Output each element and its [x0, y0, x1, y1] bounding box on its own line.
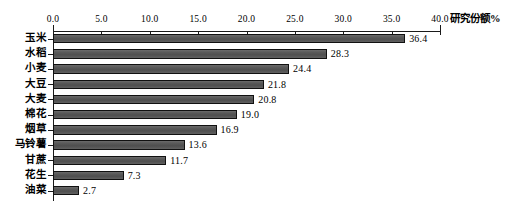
bar-row: 大豆21.8	[0, 79, 516, 94]
category-label: 棉花	[0, 108, 46, 120]
category-label: 大豆	[0, 78, 46, 90]
bar	[53, 186, 79, 195]
bar	[53, 125, 217, 134]
bar-value-label: 20.8	[258, 94, 276, 105]
bar-row: 甘蔗11.7	[0, 155, 516, 170]
horizontal-bar-chart: 0.05.010.015.020.025.030.035.040.0 研究份额%…	[0, 0, 516, 217]
bar-row: 大麦20.8	[0, 94, 516, 109]
bar-value-label: 7.3	[128, 170, 141, 181]
bar-value-label: 16.9	[221, 124, 239, 135]
bar-value-label: 2.7	[83, 185, 96, 196]
bar	[53, 49, 327, 58]
category-label: 甘蔗	[0, 154, 46, 166]
bar	[53, 171, 124, 180]
bar-row: 玉米36.4	[0, 33, 516, 48]
bar-row: 烟草16.9	[0, 124, 516, 139]
bar-value-label: 19.0	[241, 109, 259, 120]
category-label: 玉米	[0, 32, 46, 44]
bar-row: 棉花19.0	[0, 109, 516, 124]
bar-value-label: 11.7	[170, 155, 188, 166]
value-axis-tick-label: 5.0	[81, 14, 121, 25]
bar	[53, 110, 237, 119]
bar	[53, 34, 405, 43]
value-axis-tick-label: 15.0	[178, 14, 218, 25]
bar	[53, 156, 166, 165]
bar-value-label: 13.6	[189, 139, 207, 150]
bar-value-label: 21.8	[268, 79, 286, 90]
category-label: 花生	[0, 169, 46, 181]
value-axis-tick-label: 30.0	[323, 14, 363, 25]
category-label: 大麦	[0, 93, 46, 105]
category-label: 水稻	[0, 47, 46, 59]
bar-row: 水稻28.3	[0, 48, 516, 63]
value-axis-tick-label: 0.0	[33, 14, 73, 25]
bar	[53, 140, 185, 149]
value-axis-tick-label: 10.0	[130, 14, 170, 25]
value-axis-tick-label: 25.0	[275, 14, 315, 25]
category-label: 小麦	[0, 62, 46, 74]
bar-row: 小麦24.4	[0, 63, 516, 78]
bar	[53, 80, 264, 89]
bar-row: 油菜2.7	[0, 185, 516, 200]
category-label: 马铃薯	[0, 138, 46, 150]
bar-value-label: 36.4	[409, 33, 427, 44]
bar	[53, 95, 254, 104]
category-label: 油菜	[0, 184, 46, 196]
category-label: 烟草	[0, 123, 46, 135]
bar-value-label: 28.3	[331, 48, 349, 59]
bar-value-label: 24.4	[293, 63, 311, 74]
bar-row: 马铃薯13.6	[0, 139, 516, 154]
bar	[53, 64, 289, 73]
bar-row: 花生7.3	[0, 170, 516, 185]
value-axis-title: 研究份额%	[450, 13, 501, 25]
value-axis-tick-label: 20.0	[227, 14, 267, 25]
value-axis-tick-label: 35.0	[372, 14, 412, 25]
